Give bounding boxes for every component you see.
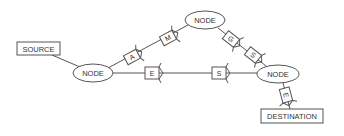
packet-g: G	[220, 28, 245, 53]
link-source-node	[52, 55, 80, 67]
packet-s-lower-label: S	[217, 70, 222, 77]
source-label: SOURCE	[22, 45, 54, 54]
source-box: SOURCE	[17, 42, 60, 55]
node-left: NODE	[73, 64, 113, 82]
destination-label: DESTINATION	[267, 112, 317, 121]
link-left-top	[108, 25, 188, 68]
node-right: NODE	[257, 65, 299, 83]
packet-a: A	[122, 44, 146, 68]
packet-m: M	[158, 25, 182, 49]
node-top: NODE	[185, 11, 225, 29]
node-top-label: NODE	[194, 16, 216, 25]
packet-e-lower-label: E	[150, 70, 155, 77]
network-diagram: SOURCE DESTINATION NODE NODE NODE A M G …	[0, 0, 344, 136]
link-top-right	[218, 28, 266, 66]
destination-box: DESTINATION	[261, 109, 323, 123]
packet-e-final: E	[275, 86, 297, 108]
packet-s-upper: S	[242, 44, 267, 69]
node-left-label: NODE	[82, 69, 104, 78]
node-right-label: NODE	[267, 70, 289, 79]
